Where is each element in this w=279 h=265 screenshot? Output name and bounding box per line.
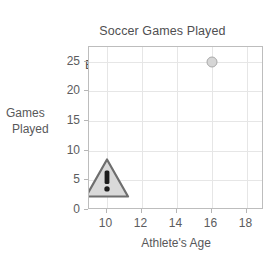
warning-triangle-icon[interactable] <box>88 157 131 204</box>
x-axis-title: Athlete's Age <box>88 236 264 250</box>
y-axis-tick-label: 20 <box>54 83 80 97</box>
gridline-horizontal <box>89 62 262 63</box>
x-axis-tick-mark <box>141 209 142 213</box>
x-axis-tick-mark <box>246 209 247 213</box>
gridline-vertical <box>247 47 248 208</box>
x-axis-tick-mark <box>176 209 177 213</box>
gridline-horizontal <box>89 151 262 152</box>
gridline-vertical <box>212 47 213 208</box>
x-axis-tick-label: 16 <box>198 216 224 230</box>
gridline-vertical <box>177 47 178 208</box>
y-axis-tick-label: 10 <box>54 143 80 157</box>
x-axis-tick-mark <box>211 209 212 213</box>
x-axis-tick-label: 18 <box>233 216 259 230</box>
x-axis-tick-mark <box>106 209 107 213</box>
y-axis-tick-label: 15 <box>54 113 80 127</box>
x-axis-tick-label: 14 <box>163 216 189 230</box>
gridline-vertical <box>142 47 143 208</box>
scatter-chart-figure: Soccer Games Played Each Season by Age G… <box>0 0 279 265</box>
gridline-horizontal <box>89 91 262 92</box>
x-axis-tick-label: 10 <box>93 216 119 230</box>
y-axis-tick-mark <box>84 209 88 210</box>
y-axis-tick-label: 5 <box>54 172 80 186</box>
data-point[interactable] <box>206 56 217 67</box>
y-axis-tick-label: 0 <box>54 202 80 216</box>
y-axis-title-line-1: Games <box>6 106 45 120</box>
plot-area <box>88 46 263 209</box>
x-axis-tick-label: 12 <box>128 216 154 230</box>
gridline-horizontal <box>89 121 262 122</box>
chart-title-line-1: Soccer Games Played <box>99 24 225 38</box>
y-axis-tick-label: 25 <box>54 54 80 68</box>
